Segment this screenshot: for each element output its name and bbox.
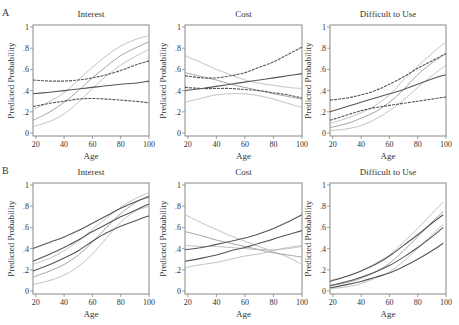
y-tick-label: .6	[175, 65, 181, 74]
panel-title: Cost	[235, 167, 252, 177]
y-tick-label: .8	[23, 202, 29, 211]
x-axis-label: Age	[84, 309, 99, 319]
y-tick-label: 0	[322, 129, 326, 138]
series-line-dark-estimate	[33, 81, 149, 94]
y-axis-label: Predicted Probability	[158, 42, 168, 119]
x-tick-label: 80	[269, 140, 277, 149]
series-line-dark-lower	[330, 97, 446, 120]
x-tick-label: 80	[269, 298, 277, 307]
y-tick-label: .4	[175, 245, 181, 254]
series-group	[33, 36, 149, 127]
panel-b-interest: Interest0.2.4.6.8120406080100AgePredicte…	[6, 167, 155, 319]
x-tick-label: 40	[212, 140, 220, 149]
series-line-light-upper	[185, 56, 302, 89]
x-tick-label: 80	[414, 298, 422, 307]
plot-frame	[185, 25, 302, 136]
x-tick-label: 20	[184, 140, 192, 149]
y-tick-label: .4	[320, 87, 326, 96]
x-tick-label: 40	[212, 298, 220, 307]
y-tick-label: .8	[175, 44, 181, 53]
series-group	[185, 215, 302, 268]
y-tick-label: .4	[175, 87, 181, 96]
y-tick-label: 1	[25, 181, 29, 190]
y-tick-label: 1	[177, 23, 181, 32]
panel-title: Difficult to Use	[360, 9, 416, 19]
y-tick-label: .2	[320, 266, 326, 275]
x-axis-label: Age	[381, 309, 396, 319]
y-tick-label: .6	[320, 223, 326, 232]
x-tick-label: 100	[440, 298, 452, 307]
x-tick-label: 80	[117, 140, 125, 149]
x-tick-label: 20	[184, 298, 192, 307]
panel-title: Interest	[78, 167, 105, 177]
panels: Interest0.2.4.6.8120406080100AgePredicte…	[6, 9, 452, 319]
series-line-dark-lower	[185, 87, 302, 98]
x-tick-label: 60	[385, 140, 393, 149]
series-group	[185, 47, 302, 108]
x-tick-label: 20	[32, 140, 40, 149]
x-axis-label: Age	[236, 309, 251, 319]
x-tick-label: 20	[329, 140, 337, 149]
series-group	[330, 42, 446, 131]
panel-title: Interest	[78, 9, 105, 19]
y-tick-label: .2	[23, 108, 29, 117]
series-line-dark-upper	[185, 215, 302, 250]
y-tick-label: .6	[175, 223, 181, 232]
plot-frame	[33, 183, 149, 294]
y-tick-label: .4	[320, 245, 326, 254]
series-line-dark-upper	[33, 61, 149, 81]
x-axis-label: Age	[381, 151, 396, 161]
y-tick-label: 1	[25, 23, 29, 32]
y-tick-label: .8	[320, 44, 326, 53]
x-tick-label: 60	[88, 140, 96, 149]
x-tick-label: 60	[385, 298, 393, 307]
x-tick-label: 60	[88, 298, 96, 307]
y-tick-label: .2	[175, 266, 181, 275]
row-label-b: B	[2, 165, 9, 176]
y-axis-label: Predicted Probability	[303, 200, 313, 277]
y-tick-label: 0	[177, 287, 181, 296]
y-tick-label: .8	[320, 202, 326, 211]
series-line-light-estimate	[330, 54, 446, 128]
x-tick-label: 60	[241, 140, 249, 149]
x-axis-label: Age	[236, 151, 251, 161]
panel-a-interest: Interest0.2.4.6.8120406080100AgePredicte…	[6, 9, 155, 161]
y-tick-label: .8	[23, 44, 29, 53]
panel-a-cost: Cost0.2.4.6.8120406080100AgePredicted Pr…	[158, 9, 308, 161]
x-tick-label: 40	[60, 140, 68, 149]
series-line-dark-estimate	[330, 75, 446, 112]
y-axis-label: Predicted Probability	[6, 200, 16, 277]
series-line-light-lower	[33, 206, 149, 284]
x-tick-label: 60	[241, 298, 249, 307]
x-axis-label: Age	[84, 151, 99, 161]
series-line-dark-lower	[33, 99, 149, 107]
x-tick-label: 80	[117, 298, 125, 307]
x-tick-label: 20	[329, 298, 337, 307]
x-tick-label: 40	[60, 298, 68, 307]
panel-a-difficult-to-use: Difficult to Use0.2.4.6.8120406080100Age…	[303, 9, 452, 161]
y-tick-label: 1	[322, 181, 326, 190]
series-line-light-estimate	[330, 212, 443, 286]
y-tick-label: 1	[322, 23, 326, 32]
y-tick-label: 0	[25, 129, 29, 138]
y-tick-label: .6	[320, 65, 326, 74]
series-line-dark-upper	[330, 54, 446, 101]
x-tick-label: 40	[357, 298, 365, 307]
series-group	[330, 202, 443, 289]
x-tick-label: 100	[440, 140, 452, 149]
series-line-dark-upper	[330, 215, 443, 282]
y-tick-label: .6	[23, 223, 29, 232]
x-tick-label: 100	[296, 140, 308, 149]
panel-title: Cost	[235, 9, 252, 19]
x-tick-label: 40	[357, 140, 365, 149]
y-tick-label: .6	[23, 65, 29, 74]
y-tick-label: .8	[175, 202, 181, 211]
x-tick-label: 20	[32, 298, 40, 307]
x-tick-label: 80	[414, 140, 422, 149]
y-tick-label: 1	[177, 181, 181, 190]
series-line-dark-upper	[185, 47, 302, 78]
series-group	[33, 192, 149, 284]
row-label-a: A	[2, 7, 10, 18]
panel-b-difficult-to-use: Difficult to Use0.2.4.6.8120406080100Age…	[303, 167, 452, 319]
series-line-light-estimate	[33, 196, 149, 278]
